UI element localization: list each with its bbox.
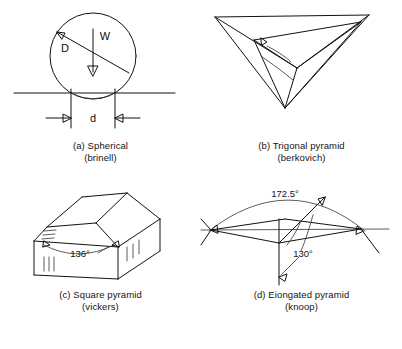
trigonal-pyramid-drawing — [201, 0, 402, 140]
caption-square-pyramid-line1: (c) Square pyramid — [59, 289, 142, 300]
angle-leader — [98, 247, 108, 253]
diameter-arrowhead — [57, 32, 65, 39]
impression-arc — [71, 93, 115, 99]
panel-spherical-brinell: D W d (a) Spherical (brinell) — [0, 0, 201, 175]
panel-square-pyramid-vickers: 136° (c) Square pyramid (vickers) — [0, 175, 201, 335]
long-axis-extension-left-lower — [201, 230, 211, 245]
top-face-edge-b — [82, 193, 127, 197]
rim-edge-top — [215, 15, 369, 17]
short-angle-leader — [281, 257, 299, 275]
caption-spherical: (a) Spherical (brinell) — [0, 140, 201, 164]
apex-angle-arrowhead — [261, 38, 267, 45]
impression-label: d — [90, 112, 96, 124]
base-edge-right — [118, 251, 160, 279]
hatch-left-1 — [44, 230, 56, 231]
elongated-pyramid-drawing: 172.5° 130° — [201, 175, 402, 293]
panel-trigonal-pyramid-berkovich: (b) Trigonal pyramid (berkovich) — [201, 0, 402, 175]
short-angle-leader-arrowhead — [279, 274, 287, 281]
top-face-edge-a — [47, 197, 82, 227]
lateral-edge-right — [285, 22, 361, 108]
long-axis-extension-right — [361, 229, 379, 253]
silhouette-edge-left — [215, 17, 285, 108]
panel-elongated-pyramid-knoop: 172.5° 130° (d) Eiongated pyramid (knoop… — [201, 175, 402, 335]
caption-trigonal-line1: (b) Trigonal pyramid — [258, 140, 344, 151]
inner-base-edge-back — [254, 22, 361, 40]
apex-angle-arc-inner — [267, 46, 291, 62]
hatch-left-2 — [43, 234, 55, 235]
caption-elongated-pyramid-line2: (knoop) — [201, 301, 402, 313]
rhombus-edge-upper-left — [211, 219, 285, 230]
caption-elongated-pyramid-line1: (d) Eiongated pyramid — [254, 289, 350, 300]
caption-trigonal-line2: (berkovich) — [201, 152, 402, 164]
top-face-edge-c — [96, 193, 127, 223]
rhombus-edge-lower-left — [211, 230, 279, 243]
hatch-left-3 — [42, 238, 54, 239]
rhombus-edge-upper-right — [285, 219, 361, 229]
long-axis-extension-left-upper — [201, 219, 211, 230]
inner-base-edge-right — [297, 22, 361, 68]
caption-trigonal: (b) Trigonal pyramid (berkovich) — [201, 140, 402, 164]
diameter-label: D — [61, 42, 69, 54]
knoop-long-angle-label: 172.5° — [271, 188, 299, 199]
clipped-bottom-text-strip — [0, 337, 402, 349]
base-edge-front — [34, 275, 118, 279]
vickers-angle-label: 136° — [70, 248, 90, 259]
load-label: W — [100, 30, 111, 42]
caption-square-pyramid-line2: (vickers) — [0, 301, 201, 313]
square-pyramid-drawing: 136° — [0, 175, 201, 293]
top-face-edge-d — [47, 223, 96, 227]
indenter-geometry-figure: D W d (a) Spherical (brinell) — [0, 0, 402, 349]
caption-square-pyramid: (c) Square pyramid (vickers) — [0, 289, 201, 313]
knoop-short-angle-label: 130° — [293, 248, 313, 259]
caption-elongated-pyramid: (d) Eiongated pyramid (knoop) — [201, 289, 402, 313]
caption-spherical-line1: (a) Spherical — [73, 140, 128, 151]
short-angle-arc-outer — [301, 215, 313, 251]
right-face-edge-top — [127, 193, 160, 219]
spherical-indenter-drawing: D W d — [0, 0, 201, 140]
caption-spherical-line2: (brinell) — [0, 152, 201, 164]
